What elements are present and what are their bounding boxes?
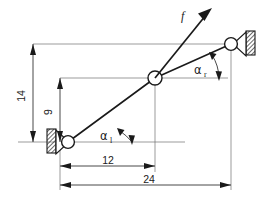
dimension-14-label: 14 xyxy=(15,90,27,102)
diagram-canvas: f α l α r 14 9 12 24 xyxy=(0,0,265,198)
force-arrowhead-icon xyxy=(198,8,212,21)
dimension-14-arrow-top-icon xyxy=(30,44,36,55)
dimension-9-label: 9 xyxy=(42,109,54,115)
dimension-12-arrow-left-icon xyxy=(60,163,71,169)
angle-right-subscript-label: r xyxy=(204,70,207,79)
dimension-14-arrow-bottom-icon xyxy=(30,131,36,142)
left-joint-circle-icon xyxy=(62,136,75,149)
dimension-24-label: 24 xyxy=(143,173,155,185)
right-pin-support xyxy=(225,31,255,56)
dimension-vertical-9 xyxy=(57,78,63,142)
dimension-24-arrow-left-icon xyxy=(60,182,71,188)
right-support-hatch-icon xyxy=(246,31,255,55)
angle-left-label: α xyxy=(100,129,108,143)
dimension-24-arrow-right-icon xyxy=(220,182,231,188)
dimension-9-arrow-top-icon xyxy=(57,78,63,89)
extension-lines xyxy=(18,44,240,190)
dimension-12-arrow-right-icon xyxy=(144,163,155,169)
angle-left-arrowhead-icon xyxy=(129,135,136,145)
angle-left-arrowhead2-icon xyxy=(117,128,125,136)
angle-left-subscript-label: l xyxy=(110,136,113,145)
force-label: f xyxy=(181,9,186,23)
right-joint-circle-icon xyxy=(225,38,238,51)
mechanism-diagram: f α l α r 14 9 12 24 xyxy=(0,0,265,198)
dimension-vertical-14 xyxy=(30,44,36,142)
left-support-hatch-icon xyxy=(47,129,56,153)
links xyxy=(68,44,231,142)
angle-right-label: α xyxy=(194,63,202,77)
angle-right-arrowhead2-icon xyxy=(209,52,217,60)
link-left xyxy=(68,78,155,142)
angle-indicators xyxy=(117,52,222,145)
text-labels: f α l α r 14 9 12 24 xyxy=(15,9,207,185)
dimension-12-label: 12 xyxy=(102,154,114,166)
angle-right-arrowhead-icon xyxy=(216,71,223,81)
